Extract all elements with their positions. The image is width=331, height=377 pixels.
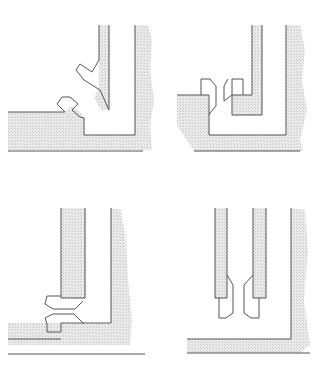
panel-top-right <box>177 25 307 151</box>
opposed-u-seals-outline <box>232 79 243 95</box>
opposed-u-seals-outline <box>209 25 286 135</box>
vertical-twin-seals-shaded-region <box>253 208 266 298</box>
opposed-u-seals-shaded-region <box>232 25 262 115</box>
diagonal-seal-corner-shaded-region <box>8 25 154 150</box>
stacked-horizontal-seals-shaded-region <box>61 208 85 298</box>
seal-cross-section-figure <box>0 0 331 377</box>
vertical-twin-seals-outline <box>187 208 291 339</box>
vertical-twin-seals-shaded-region <box>215 208 227 298</box>
opposed-u-seals-outline <box>224 79 232 101</box>
panel-bottom-right <box>187 208 310 353</box>
panel-top-left <box>8 25 154 151</box>
opposed-u-seals-shaded-region <box>177 25 307 151</box>
diagonal-seal-corner-shaded-region <box>94 25 109 110</box>
panel-bottom-left <box>8 208 145 354</box>
diagram-canvas <box>0 0 331 377</box>
